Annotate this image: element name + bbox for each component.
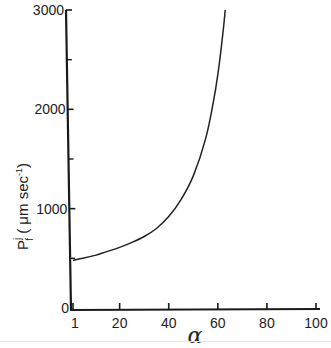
data-line <box>73 10 225 260</box>
line-chart: 0100020003000 120406080100 αPjf ( μm sec… <box>0 0 331 348</box>
y-tick-label: 2000 <box>35 101 66 117</box>
x-tick-label: 100 <box>304 315 328 331</box>
y-axis: 0100020003000 <box>33 2 75 316</box>
data-series <box>73 10 225 260</box>
x-tick-label: 60 <box>210 315 226 331</box>
y-tick-label: 1000 <box>36 201 67 217</box>
x-tick-label: 40 <box>161 315 177 331</box>
x-tick-label: 80 <box>259 315 275 331</box>
x-axis-line <box>70 309 320 310</box>
x-tick-label: 1 <box>71 315 79 331</box>
y-axis-line <box>66 10 71 310</box>
y-tick-label: 0 <box>61 300 69 316</box>
x-tick-label: 20 <box>112 315 128 331</box>
y-tick-label: 3000 <box>33 2 64 18</box>
x-axis-title: α <box>188 323 203 348</box>
y-axis-title: Pjf ( μm sec-1) <box>12 163 35 250</box>
divider <box>0 341 331 342</box>
